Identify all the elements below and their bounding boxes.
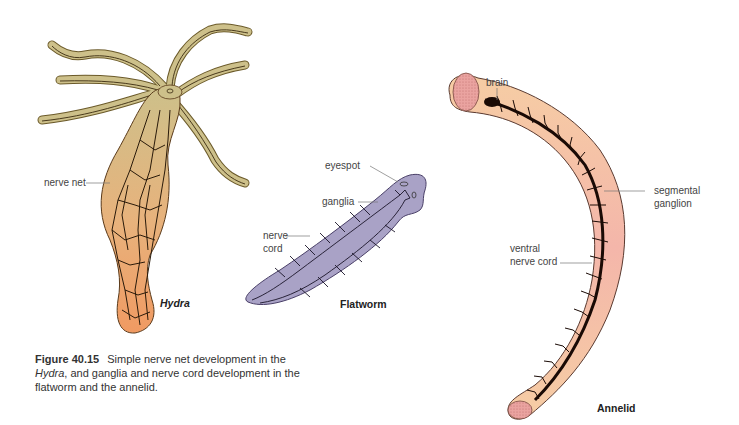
label-ventral-line2: nerve cord (510, 256, 557, 268)
label-annelid: Annelid (597, 402, 636, 414)
label-ganglia: ganglia (322, 196, 354, 208)
label-nerve-cord-line2: cord (263, 243, 282, 255)
figure-caption: Figure 40.15Simple nerve net development… (35, 352, 320, 394)
label-ventral-line1: ventral (510, 243, 540, 255)
caption-part-3: , and ganglia and nerve cord development… (35, 367, 300, 393)
label-eyespot: eyespot (325, 160, 360, 172)
label-segmental-line2: ganglion (654, 198, 692, 210)
label-nerve-cord-line1: nerve (263, 230, 288, 242)
label-segmental-line1: segmental (654, 185, 700, 197)
label-flatworm: Flatworm (340, 298, 387, 310)
label-nerve-net: nerve net (44, 177, 86, 189)
figure-number: Figure 40.15 (35, 353, 99, 365)
caption-part-1: Simple nerve net development in the (107, 353, 286, 365)
label-brain: brain (486, 77, 508, 89)
label-hydra: Hydra (160, 297, 190, 309)
caption-italic-hydra: Hydra (35, 367, 64, 379)
